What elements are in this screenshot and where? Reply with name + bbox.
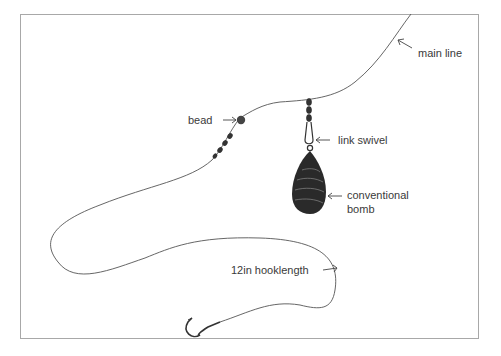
label-main-line: main line — [418, 47, 462, 60]
label-bomb-line2: bomb — [347, 203, 375, 216]
arrow-bead — [223, 117, 236, 123]
hooklength-line — [51, 118, 336, 322]
label-link-swivel: link swivel — [338, 134, 388, 147]
bead-icon — [237, 116, 245, 124]
label-hooklength: 12in hooklength — [231, 264, 309, 277]
bomb-weight-icon — [292, 151, 326, 214]
arrow-link-swivel — [316, 137, 330, 143]
label-bomb-line1: conventional — [347, 189, 409, 202]
hook-icon — [186, 318, 220, 337]
label-bead: bead — [188, 114, 212, 127]
arrow-bomb — [328, 193, 342, 199]
arrow-hooklength — [323, 265, 337, 272]
link-swivel-icon — [305, 99, 313, 151]
arrow-main-line — [398, 39, 412, 48]
main-line — [240, 14, 411, 118]
